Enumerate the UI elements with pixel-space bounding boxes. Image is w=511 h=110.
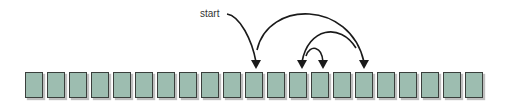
start-arrow [227,14,256,62]
arrowhead-icon [318,60,328,69]
jump-arrow-3 [306,48,323,62]
arrowhead-icon [359,60,369,69]
jump-arrow-2 [302,32,356,62]
arrowhead-icon [251,60,261,69]
jump-arrows [0,0,511,110]
arrowhead-icon [297,60,307,69]
